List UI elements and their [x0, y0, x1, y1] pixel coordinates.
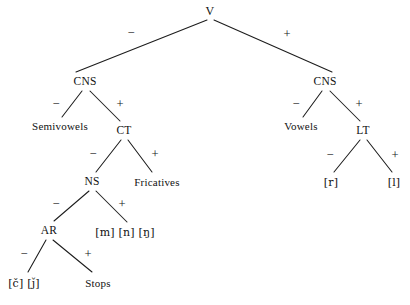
edge-sign-label: −	[89, 148, 96, 161]
tree-node-root: V	[206, 5, 215, 17]
edge-sign-label: +	[151, 148, 158, 161]
feature-tree-diagram: −+−+−+−+−+−+−+VCNSCNSSemivowelsCTVowelsL…	[0, 0, 410, 305]
tree-edge	[367, 140, 392, 172]
tree-edge	[76, 20, 207, 72]
edge-sign-label: −	[52, 198, 59, 211]
edges-group	[28, 20, 392, 272]
tree-node-ns: NS	[84, 176, 99, 188]
edge-sign-label: +	[116, 98, 123, 111]
edge-sign-label: +	[355, 98, 362, 111]
edge-sign-label: +	[391, 149, 398, 162]
tree-edge	[214, 20, 332, 72]
edge-sign-label: −	[52, 98, 59, 111]
tree-node-cns_right: CNS	[314, 76, 337, 88]
tree-edge	[96, 140, 121, 172]
tree-edge	[303, 91, 322, 117]
tree-node-r: [r]	[324, 177, 338, 188]
tree-node-stops: Stops	[85, 278, 110, 289]
edge-sign-label: −	[127, 27, 134, 40]
tree-node-ct: CT	[116, 125, 131, 137]
tree-edge	[28, 240, 46, 272]
tree-node-vowels: Vowels	[284, 121, 317, 132]
edge-sign-label: −	[326, 149, 333, 162]
tree-edge	[128, 140, 152, 172]
tree-edges-layer	[0, 0, 410, 305]
tree-edge	[62, 91, 82, 117]
tree-node-lt: LT	[356, 125, 369, 137]
tree-node-semivowels: Semivowels	[32, 121, 88, 132]
tree-edge	[334, 140, 360, 172]
edge-sign-label: +	[283, 28, 290, 41]
tree-node-cns_left: CNS	[74, 76, 97, 88]
tree-node-affricates: [č] [ǰ]	[8, 278, 40, 289]
edge-sign-label: +	[118, 198, 125, 211]
tree-node-nasals: [m] [n] [ŋ]	[95, 227, 155, 238]
tree-node-l: [l]	[388, 177, 401, 188]
edge-sign-label: +	[84, 248, 91, 261]
tree-node-ar: AR	[41, 225, 57, 237]
tree-node-fricatives: Fricatives	[134, 177, 179, 188]
edge-sign-label: −	[292, 98, 299, 111]
edge-sign-label: −	[20, 248, 27, 261]
